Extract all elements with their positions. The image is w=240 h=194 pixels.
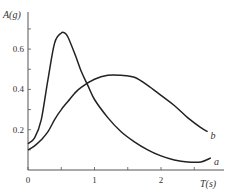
series-a-label: a <box>214 156 219 167</box>
response-spectrum-chart: 0.20.40.6 012 A(g) T(s) a b <box>0 0 240 194</box>
y-tick-label: 0.4 <box>13 84 25 94</box>
series-b-label: b <box>211 130 216 141</box>
y-tick-label: 0.2 <box>13 125 24 135</box>
x-tick-label: 0 <box>26 175 31 185</box>
y-axis-title: A(g) <box>2 9 21 21</box>
series-a-curve <box>28 32 211 162</box>
y-tick-label: 0.6 <box>13 44 25 54</box>
x-tick-label: 1 <box>92 175 97 185</box>
x-tick-label: 2 <box>159 175 164 185</box>
x-axis-title: T(s) <box>200 178 217 190</box>
series-b-curve <box>28 75 208 150</box>
